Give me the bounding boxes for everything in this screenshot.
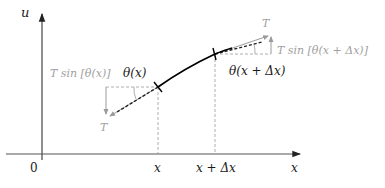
angle-label-left: θ(x) xyxy=(123,66,147,80)
right-tension-label: T xyxy=(262,17,271,30)
left-vertical-force-label: T sin [θ(x)] xyxy=(50,67,111,80)
x-axis-label: x xyxy=(291,161,298,175)
tick-label-x-plus-dx: x + Δx xyxy=(196,161,236,175)
origin-label: 0 xyxy=(30,161,38,175)
left-tension-label: T xyxy=(100,121,109,134)
tick-label-x: x xyxy=(154,161,161,175)
left-force-construct xyxy=(106,87,158,116)
y-axis-label: u xyxy=(21,5,29,20)
right-vertical-force-label: T sin [θ(x + Δx)] xyxy=(277,44,369,57)
curve-tick-x xyxy=(154,82,162,92)
angle-label-right: θ(x + Δx) xyxy=(229,64,286,78)
string-tension-diagram: u x 0 x x + Δx θ(x) θ(x + Δx) T sin [θ(x… xyxy=(0,0,385,188)
